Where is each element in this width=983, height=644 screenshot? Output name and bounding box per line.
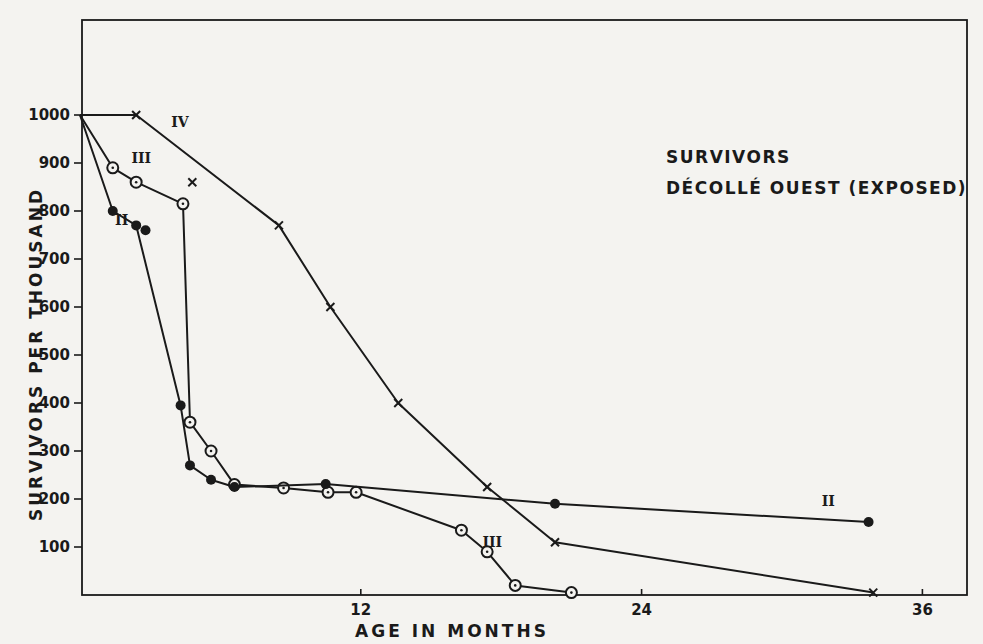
- circle-dot-marker-icon: [460, 529, 463, 532]
- series-ii: [80, 115, 874, 527]
- series-line: [80, 115, 571, 593]
- y-axis-label: SURVIVORS PER THOUSAND: [26, 187, 46, 521]
- x-tick-label: 12: [350, 601, 371, 619]
- circle-dot-marker-icon: [210, 450, 213, 453]
- chart-title: SURVIVORS: [666, 147, 791, 167]
- filled-circle-marker-icon: [550, 499, 560, 509]
- circle-dot-marker-icon: [135, 181, 138, 184]
- filled-circle-marker-icon: [131, 220, 141, 230]
- series-label: III: [482, 534, 502, 550]
- circle-dot-marker-icon: [282, 487, 285, 490]
- y-tick-label: 100: [39, 538, 70, 556]
- y-tick-label: 1000: [28, 106, 70, 124]
- x-tick-label: 36: [912, 601, 933, 619]
- filled-circle-marker-icon: [864, 517, 874, 527]
- x-axis-label: AGE IN MONTHS: [355, 621, 549, 641]
- x-tick-label: 24: [631, 601, 652, 619]
- circle-dot-marker-icon: [570, 591, 573, 594]
- circle-dot-marker-icon: [111, 167, 114, 170]
- series-label: IV: [171, 114, 190, 130]
- series-label: III: [131, 150, 151, 166]
- circle-dot-marker-icon: [182, 203, 185, 206]
- circle-dot-marker-icon: [514, 584, 517, 587]
- circle-dot-marker-icon: [327, 491, 330, 494]
- filled-circle-marker-icon: [321, 479, 331, 489]
- series-line: [80, 115, 869, 522]
- filled-circle-marker-icon: [206, 475, 216, 485]
- filled-circle-marker-icon: [229, 482, 239, 492]
- filled-circle-marker-icon: [176, 400, 186, 410]
- circle-dot-marker-icon: [486, 551, 489, 554]
- filled-circle-marker-icon: [141, 225, 151, 235]
- survivorship-chart: 1002003004005006007008009001000122436 IV…: [0, 0, 983, 644]
- filled-circle-marker-icon: [185, 460, 195, 470]
- y-tick-label: 900: [39, 154, 70, 172]
- circle-dot-marker-icon: [189, 421, 192, 424]
- circle-dot-marker-icon: [355, 491, 358, 494]
- series-iii: [80, 115, 577, 598]
- series-label: II: [822, 493, 835, 509]
- series-label: II: [115, 212, 128, 228]
- chart-subtitle: DÉCOLLÉ OUEST (EXPOSED): [666, 177, 967, 198]
